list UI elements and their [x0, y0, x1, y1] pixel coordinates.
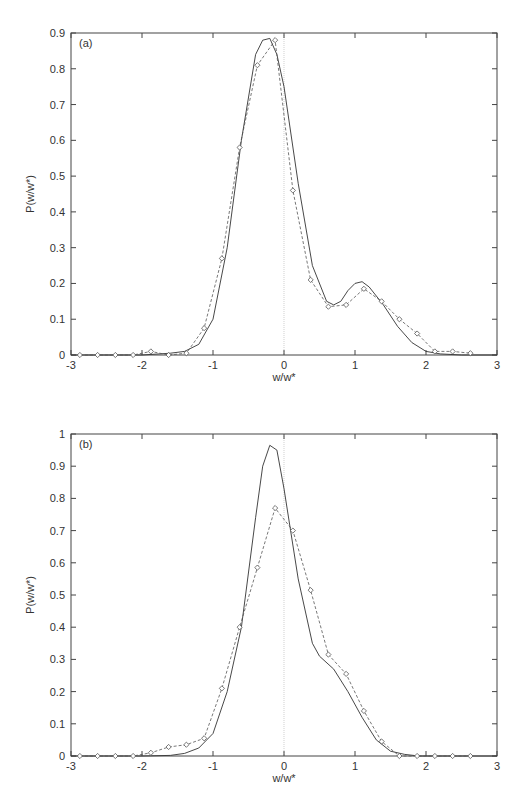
y-tick-label: 0.5 [50, 589, 65, 601]
diamond-marker [184, 742, 189, 747]
panel-a-plot: -3-2-1012300.10.20.30.40.50.60.70.80.9w/… [24, 27, 500, 383]
diamond-marker [237, 145, 242, 150]
y-tick-label: 0 [59, 750, 65, 762]
diamond-marker [148, 349, 153, 354]
x-tick-label: 0 [281, 359, 287, 371]
x-tick-label: -2 [137, 359, 147, 371]
diamond-marker [397, 753, 402, 758]
y-tick-label: 0.6 [50, 557, 65, 569]
x-tick-label: 3 [494, 760, 500, 772]
panel-label: (b) [79, 438, 92, 450]
diamond-marker [432, 753, 437, 758]
diamond-marker [450, 349, 455, 354]
x-tick-label: -3 [66, 359, 76, 371]
y-tick-label: 0.8 [50, 492, 65, 504]
y-tick-label: 0.4 [50, 206, 65, 218]
diamond-marker [131, 753, 136, 758]
x-tick-label: -1 [208, 359, 218, 371]
y-tick-label: 0.3 [50, 242, 65, 254]
diamond-marker [77, 352, 82, 357]
diamond-marker [255, 565, 260, 570]
x-axis-label: w/w* [271, 772, 296, 784]
diamond-marker [219, 256, 224, 261]
y-tick-label: 0.1 [50, 718, 65, 730]
diamond-marker [326, 304, 331, 309]
diamond-marker [415, 753, 420, 758]
diamond-marker [290, 188, 295, 193]
x-tick-label: 1 [352, 359, 358, 371]
diamond-marker [113, 753, 118, 758]
y-tick-label: 0.9 [50, 27, 65, 39]
diamond-marker [95, 753, 100, 758]
y-axis-label: P(w/w*) [24, 175, 36, 213]
y-tick-label: 0.9 [50, 460, 65, 472]
diamond-marker [468, 753, 473, 758]
y-tick-label: 0.5 [50, 170, 65, 182]
y-tick-label: 0.7 [50, 99, 65, 111]
x-tick-label: 1 [352, 760, 358, 772]
diamond-marker [450, 753, 455, 758]
y-tick-label: 0 [59, 349, 65, 361]
diamond-marker [219, 686, 224, 691]
y-tick-label: 0.2 [50, 686, 65, 698]
panel-b-plot: -3-2-1012300.10.20.30.40.50.60.70.80.91w… [24, 428, 500, 784]
series-dashed-line [80, 40, 471, 355]
y-axis-label: P(w/w*) [24, 576, 36, 614]
diamond-marker [148, 750, 153, 755]
x-tick-label: -2 [137, 760, 147, 772]
y-tick-label: 0.2 [50, 277, 65, 289]
x-tick-label: -3 [66, 760, 76, 772]
y-tick-label: 0.8 [50, 63, 65, 75]
y-tick-label: 0.1 [50, 313, 65, 325]
diamond-marker [361, 708, 366, 713]
x-tick-label: 2 [423, 760, 429, 772]
x-tick-label: 3 [494, 359, 500, 371]
diamond-marker [131, 352, 136, 357]
diamond-marker [273, 38, 278, 43]
x-tick-label: 2 [423, 359, 429, 371]
y-tick-label: 0.7 [50, 525, 65, 537]
x-axis-label: w/w* [271, 371, 296, 383]
diamond-marker [166, 744, 171, 749]
x-tick-label: 0 [281, 760, 287, 772]
diamond-marker [95, 352, 100, 357]
y-tick-label: 0.3 [50, 653, 65, 665]
diamond-marker [308, 588, 313, 593]
series-dashed-line [80, 508, 471, 756]
diamond-marker [202, 326, 207, 331]
diamond-marker [344, 671, 349, 676]
panel-label: (a) [79, 37, 92, 49]
y-tick-label: 0.6 [50, 134, 65, 146]
diamond-marker [77, 753, 82, 758]
diamond-marker [113, 352, 118, 357]
diamond-marker [255, 63, 260, 68]
y-tick-label: 0.4 [50, 621, 65, 633]
figure: -3-2-1012300.10.20.30.40.50.60.70.80.9w/… [0, 0, 521, 787]
y-tick-label: 1 [59, 428, 65, 440]
x-tick-label: -1 [208, 760, 218, 772]
diamond-marker [308, 277, 313, 282]
